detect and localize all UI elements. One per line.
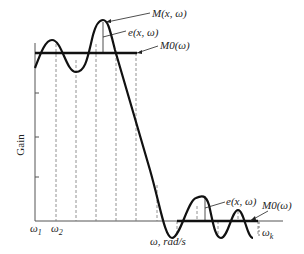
y-axis-label: Gain [14, 134, 26, 156]
sample-lines [56, 44, 258, 236]
label-m: M(x, ω) [151, 7, 187, 20]
label-e-top: e(x, ω) [128, 26, 159, 39]
filter-gain-diagram: M(x, ω) e(x, ω) M0(ω) e(x, ω) M0(ω) Gain… [0, 0, 304, 254]
arrow-head [137, 50, 142, 54]
label-e-bottom: e(x, ω) [226, 195, 257, 208]
svg-text:ωk: ωk [262, 226, 274, 241]
svg-text:ω1: ω1 [30, 222, 42, 237]
x-axis-label: ω, rad/s [150, 235, 186, 247]
label-m0-bottom: M0(ω) [261, 199, 292, 212]
svg-text:ω2: ω2 [51, 222, 63, 237]
label-m0-top: M0(ω) [159, 39, 190, 52]
x-tick-label-w1: ω1 [30, 222, 42, 237]
x-tick-label-wk: ωk [262, 226, 274, 241]
x-tick-label-w2: ω2 [51, 222, 63, 237]
leader-e-top [103, 31, 126, 37]
leader-m [107, 13, 150, 22]
